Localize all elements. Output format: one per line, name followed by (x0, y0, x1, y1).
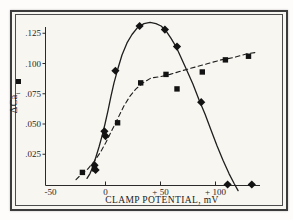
y-tick-label: .075 (25, 89, 41, 99)
x-axis-label: CLAMP POTENTIAL, mV (100, 195, 224, 205)
y-tick-label: .025 (25, 149, 41, 159)
y-tick-label: .050 (25, 119, 41, 129)
square-dashed-saturating-curve-line (76, 53, 255, 180)
square-marker (174, 86, 179, 91)
square-marker (223, 57, 228, 62)
diamond-marker (248, 180, 256, 188)
square-marker (246, 54, 251, 59)
x-tick-label: -50 (45, 187, 57, 197)
y-axis-label-text: ΔCa (8, 94, 19, 113)
y-tick-label: .100 (25, 59, 41, 69)
y-axis-label-subscript: i (14, 92, 22, 94)
diamond-solid-bell-curve-line (87, 22, 238, 190)
y-tick-label: .125 (25, 28, 41, 38)
square-marker (163, 72, 168, 77)
square-marker (200, 69, 205, 74)
chart-canvas: .125.100.075.050.025-500+ 50+ 100 (0, 0, 293, 220)
y-axis-label: ΔCai (8, 81, 21, 125)
square-marker (92, 166, 97, 171)
square-marker (138, 80, 143, 85)
square-marker (80, 170, 85, 175)
square-marker (115, 120, 120, 125)
